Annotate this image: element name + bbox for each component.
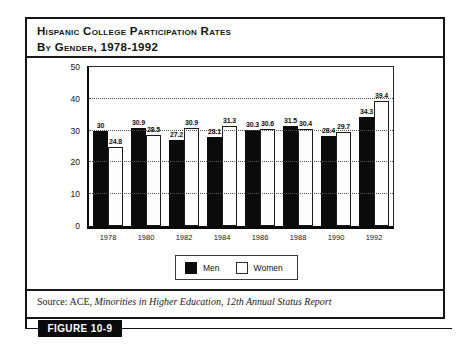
- source-divider: [27, 289, 443, 291]
- bar-men-1992: [359, 117, 374, 226]
- bar-women-1986: [260, 129, 275, 226]
- y-tick-30: 30: [56, 126, 80, 136]
- bar-value-women-1984: 31.3: [223, 117, 236, 124]
- legend-men-swatch-icon: [185, 262, 197, 274]
- bar-women-1990: [336, 132, 351, 226]
- bar-value-women-1988: 30.4: [299, 120, 312, 127]
- bar-women-1978: [108, 147, 123, 226]
- plot-area: 3024.830.928.527.230.928.131.330.330.631…: [87, 66, 394, 229]
- gridline-20: [89, 161, 393, 162]
- figure-title-line2: By Gender, 1978-1992: [37, 39, 443, 55]
- legend-women-swatch-icon: [236, 262, 248, 274]
- legend: Men Women: [175, 255, 298, 280]
- x-tick-1980: 1980: [138, 233, 155, 242]
- bar-women-1980: [146, 135, 161, 226]
- bar-value-men-1984: 28.1: [208, 128, 221, 135]
- bar-value-men-1978: 30: [97, 122, 104, 129]
- x-tick-1990: 1990: [328, 233, 345, 242]
- x-tick-1978: 1978: [100, 233, 117, 242]
- source-title: Minorities in Higher Education, 12th Ann…: [95, 296, 332, 307]
- bar-women-1982: [184, 128, 199, 226]
- y-tick-50: 50: [56, 62, 80, 72]
- bar-women-1992: [374, 101, 389, 226]
- x-tick-1984: 1984: [214, 233, 231, 242]
- legend-women-label: Women: [254, 263, 283, 273]
- gridline-30: [89, 130, 393, 131]
- y-tick-40: 40: [56, 94, 80, 104]
- bar-women-1984: [222, 126, 237, 226]
- bar-men-1986: [245, 130, 260, 226]
- bar-value-women-1980: 28.5: [147, 126, 160, 133]
- source-line: Source: ACE, Minorities in Higher Educat…: [37, 296, 437, 307]
- bar-value-men-1992: 34.3: [360, 108, 373, 115]
- bar-men-1982: [169, 140, 184, 226]
- gridline-10: [89, 193, 393, 194]
- gridline-40: [89, 98, 393, 99]
- title-block: Hispanic College Participation Rates By …: [27, 19, 443, 58]
- bar-men-1980: [131, 128, 146, 226]
- figure-page: Hispanic College Participation Rates By …: [0, 0, 468, 348]
- bar-men-1990: [321, 136, 336, 226]
- bar-value-men-1988: 31.5: [284, 117, 297, 124]
- y-tick-10: 10: [56, 189, 80, 199]
- bar-value-men-1980: 30.9: [132, 119, 145, 126]
- figure-label: FIGURE 10-9: [38, 320, 122, 337]
- legend-men-label: Men: [203, 263, 220, 273]
- bar-value-women-1992: 39.4: [375, 92, 388, 99]
- bar-value-women-1982: 30.9: [185, 119, 198, 126]
- bar-women-1988: [298, 129, 313, 226]
- figure-title-line1: Hispanic College Participation Rates: [37, 23, 443, 39]
- bar-value-women-1978: 24.8: [109, 138, 122, 145]
- source-prefix: Source: ACE,: [37, 296, 95, 307]
- x-tick-1992: 1992: [366, 233, 383, 242]
- y-tick-20: 20: [56, 157, 80, 167]
- x-tick-1988: 1988: [290, 233, 307, 242]
- bar-value-men-1986: 30.3: [246, 121, 259, 128]
- bar-value-men-1990: 28.4: [322, 127, 335, 134]
- bar-men-1978: [93, 131, 108, 226]
- x-tick-1982: 1982: [176, 233, 193, 242]
- bar-value-women-1986: 30.6: [261, 120, 274, 127]
- bar-value-women-1990: 29.7: [337, 123, 350, 130]
- bar-men-1984: [207, 137, 222, 226]
- figure-label-connector: [25, 317, 27, 329]
- y-tick-0: 0: [56, 221, 80, 231]
- bar-value-men-1982: 27.2: [170, 131, 183, 138]
- x-tick-1986: 1986: [252, 233, 269, 242]
- bar-men-1988: [283, 126, 298, 226]
